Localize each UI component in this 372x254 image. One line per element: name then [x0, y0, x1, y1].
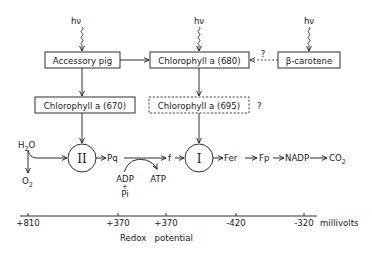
photosynthesis-electron-transport-diagram: hν hν hν Accessory pig Chlorophyll a (68…	[0, 0, 372, 254]
light-input-chl680: hν	[194, 16, 204, 51]
box-label: β-carotene	[286, 56, 333, 66]
tick-label: -320	[294, 218, 314, 228]
axis-title: Redox potential	[120, 233, 193, 243]
tick-label: +810	[16, 218, 40, 228]
ps-label: I	[197, 152, 202, 166]
nadp-label: NADP	[285, 153, 309, 163]
f-label: f	[168, 153, 172, 163]
fer-label: Fer	[224, 153, 238, 163]
box-chlorophyll-680: Chlorophyll a (680)	[150, 52, 249, 68]
fp-label: Fp	[259, 153, 269, 163]
atp-label: ATP	[150, 174, 166, 184]
box-chlorophyll-695: Chlorophyll a (695)	[149, 97, 249, 113]
box-chlorophyll-670: Chlorophyll a (670)	[35, 97, 135, 113]
tick-label: +370	[154, 218, 178, 228]
redox-axis: +810 +370 +370 -420 -320 millivolts Redo…	[16, 213, 359, 243]
h2o-label: H2O	[18, 140, 36, 153]
o2-label: O2	[22, 176, 33, 189]
box-label: Chlorophyll a (680)	[158, 56, 240, 66]
box-label: Accessory pig	[53, 56, 112, 66]
light-input-accessory: hν	[71, 16, 83, 51]
hv-label: hν	[194, 16, 204, 26]
photosystem-ii: II	[68, 144, 96, 172]
box-beta-carotene: β-carotene	[278, 52, 340, 68]
tick-label: +370	[106, 218, 130, 228]
tick-label: -420	[226, 218, 246, 228]
co2-label: CO2	[329, 153, 346, 166]
light-input-carotene: hν	[304, 16, 314, 51]
hv-label: hν	[71, 16, 81, 26]
box-label: Chlorophyll a (695)	[158, 101, 240, 111]
box-label: Chlorophyll a (670)	[44, 101, 126, 111]
uncertain-mark: ?	[261, 49, 266, 59]
unit-label: millivolts	[320, 218, 359, 228]
uncertain-mark: ?	[257, 101, 262, 111]
pq-label: Pq	[107, 153, 118, 163]
hv-label: hν	[304, 16, 314, 26]
photosystem-i: I	[185, 144, 213, 172]
arrow-adp-to-atp	[124, 159, 157, 172]
pi-label: Pi	[121, 189, 128, 199]
wavy-light-arrow-icon	[81, 27, 83, 51]
arrow-h2o-to-ps2	[28, 150, 67, 158]
wavy-light-arrow-icon	[198, 27, 200, 51]
wavy-light-arrow-icon	[308, 27, 310, 51]
ps-label: II	[77, 152, 87, 166]
box-accessory-pig: Accessory pig	[45, 52, 120, 68]
